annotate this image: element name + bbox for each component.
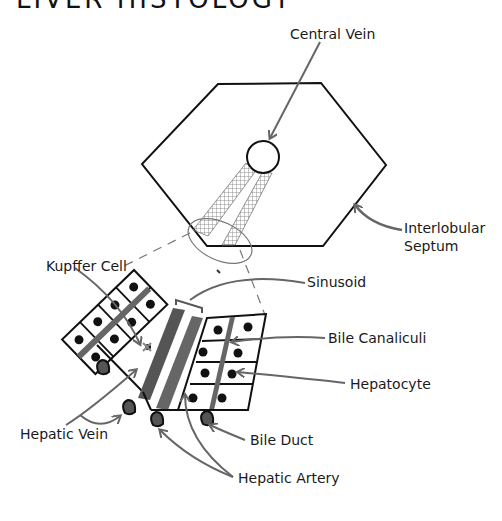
bile-duct-blob bbox=[201, 411, 213, 425]
left-hepatocyte-plate bbox=[62, 270, 167, 374]
label-central-vein: Central Vein bbox=[290, 26, 375, 43]
hepatic-vein-blob-2 bbox=[123, 400, 135, 414]
hepatic-artery-blob bbox=[151, 412, 163, 426]
central-vein-circle bbox=[247, 141, 279, 173]
label-hepatic-artery: Hepatic Artery bbox=[238, 470, 340, 487]
label-interlobular-septum-line1: Interlobular bbox=[404, 220, 485, 237]
label-hepatocyte: Hepatocyte bbox=[350, 376, 431, 393]
label-bile-duct: Bile Duct bbox=[250, 432, 313, 449]
label-kupffer-cell: Kupffer Cell bbox=[46, 258, 127, 275]
label-sinusoid: Sinusoid bbox=[307, 274, 366, 291]
label-interlobular-septum-line2: Septum bbox=[404, 238, 458, 255]
label-hepatic-vein: Hepatic Vein bbox=[20, 426, 108, 443]
hepatic-vein-blob-1 bbox=[97, 360, 109, 374]
label-bile-canaliculi: Bile Canaliculi bbox=[328, 330, 426, 347]
